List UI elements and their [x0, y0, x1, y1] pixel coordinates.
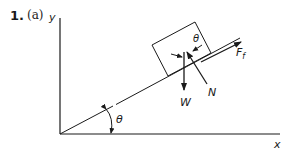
x-axis-label: x: [274, 138, 281, 151]
incline-line-upper: [116, 38, 240, 105]
y-axis-label: y: [49, 11, 56, 24]
block-angle-tick-right: [193, 45, 202, 51]
incline-angle-label: θ: [116, 113, 123, 126]
free-body-diagram: [0, 0, 292, 155]
block-angle-label: θ: [193, 33, 199, 44]
friction-label-subscript: f: [242, 52, 245, 61]
block: [152, 22, 211, 76]
friction-label: Ff: [236, 46, 245, 61]
weight-label: W: [180, 96, 191, 109]
normal-label: N: [208, 86, 216, 99]
incline-line: [60, 106, 113, 134]
block-angle-tick-left: [171, 54, 182, 57]
incline-angle-arc: [106, 109, 112, 133]
